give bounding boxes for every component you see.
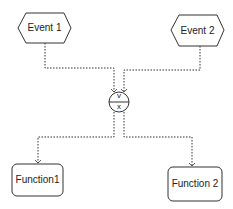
function2-label: Function 2 (168, 179, 222, 189)
edge-event1-connector (45, 43, 114, 92)
function1-label: Function1 (12, 175, 63, 185)
edge-connector-function2 (124, 112, 192, 166)
connector-bottom-label: x (109, 103, 129, 111)
edge-event2-connector (124, 46, 200, 92)
edge-connector-function1 (38, 112, 114, 163)
connector-top-label: v (109, 92, 129, 100)
event1-label: Event 1 (18, 23, 71, 33)
event2-label: Event 2 (171, 26, 224, 36)
